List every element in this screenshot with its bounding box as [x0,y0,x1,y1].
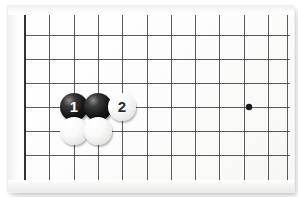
board-bevel-top-edge [8,6,294,15]
stone-move-number: 1 [70,99,78,114]
stone-move-number: 2 [118,99,126,114]
board-bevel-left-edge [8,6,21,192]
white-stone-2[interactable]: 2 [108,93,136,121]
go-diagram-screenshot: 12 [0,0,298,197]
white-stone-right[interactable] [84,117,112,145]
star-point-hoshi [246,104,252,110]
board-bevel-bottom-edge [8,180,294,192]
go-board-grid [8,6,294,192]
